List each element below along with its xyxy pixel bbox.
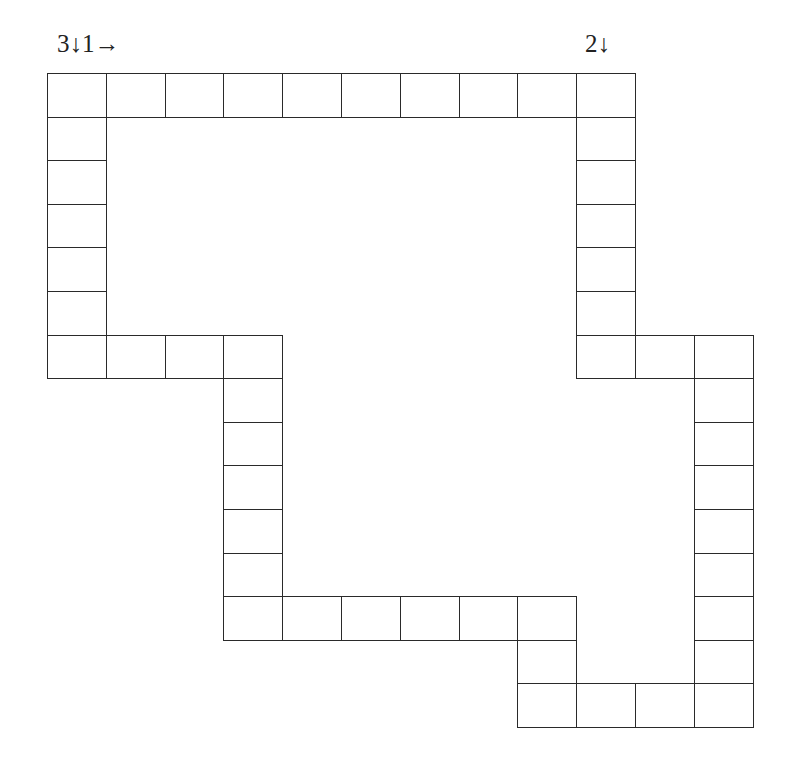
crossword-cell[interactable] — [47, 204, 107, 248]
crossword-cell[interactable] — [341, 596, 401, 641]
crossword-cell[interactable] — [223, 553, 283, 597]
crossword-cell[interactable] — [635, 683, 695, 728]
crossword-cell[interactable] — [576, 160, 636, 205]
crossword-cell[interactable] — [694, 683, 754, 728]
crossword-cell[interactable] — [576, 335, 636, 379]
crossword-cell[interactable] — [106, 335, 166, 379]
crossword-cell[interactable] — [47, 335, 107, 379]
crossword-cell[interactable] — [694, 378, 754, 423]
crossword-cell[interactable] — [165, 73, 224, 118]
crossword-cell[interactable] — [576, 204, 636, 248]
clue-label-2-down: 2↓ — [585, 31, 610, 56]
crossword-cell[interactable] — [165, 335, 224, 379]
crossword-cell[interactable] — [223, 335, 283, 379]
crossword-cell[interactable] — [400, 596, 460, 641]
crossword-cell[interactable] — [694, 465, 754, 510]
crossword-cell[interactable] — [47, 117, 107, 161]
crossword-cell[interactable] — [47, 291, 107, 336]
crossword-cell[interactable] — [459, 596, 518, 641]
crossword-cell[interactable] — [635, 335, 695, 379]
crossword-cell[interactable] — [694, 596, 754, 641]
crossword-cell[interactable] — [694, 335, 754, 379]
crossword-cell[interactable] — [576, 291, 636, 336]
crossword-grid: 3↓1→2↓ — [0, 0, 796, 769]
clue-label-3-down-1-across: 3↓1→ — [57, 31, 120, 56]
crossword-cell[interactable] — [282, 73, 342, 118]
crossword-cell[interactable] — [517, 596, 577, 641]
crossword-cell[interactable] — [223, 465, 283, 510]
crossword-cell[interactable] — [576, 247, 636, 292]
crossword-cell[interactable] — [517, 73, 577, 118]
crossword-cell[interactable] — [106, 73, 166, 118]
crossword-cell[interactable] — [400, 73, 460, 118]
crossword-cell[interactable] — [694, 553, 754, 597]
crossword-cell[interactable] — [576, 73, 636, 118]
crossword-cell[interactable] — [694, 640, 754, 684]
crossword-cell[interactable] — [47, 247, 107, 292]
crossword-cell[interactable] — [517, 640, 577, 684]
crossword-cell[interactable] — [694, 422, 754, 466]
crossword-cell[interactable] — [223, 73, 283, 118]
crossword-cell[interactable] — [47, 160, 107, 205]
crossword-cell[interactable] — [47, 73, 107, 118]
crossword-cell[interactable] — [517, 683, 577, 728]
crossword-cell[interactable] — [223, 378, 283, 423]
crossword-cell[interactable] — [341, 73, 401, 118]
crossword-cell[interactable] — [576, 683, 636, 728]
crossword-cell[interactable] — [576, 117, 636, 161]
crossword-cell[interactable] — [223, 596, 283, 641]
crossword-cell[interactable] — [694, 509, 754, 554]
crossword-cell[interactable] — [282, 596, 342, 641]
crossword-cell[interactable] — [223, 509, 283, 554]
crossword-cell[interactable] — [459, 73, 518, 118]
crossword-cell[interactable] — [223, 422, 283, 466]
